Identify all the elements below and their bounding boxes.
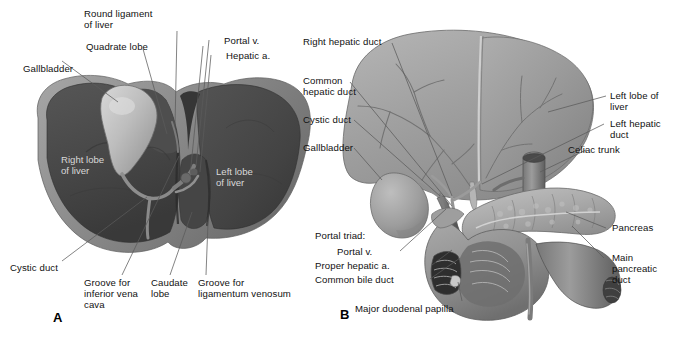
overlay-label-right-lobe-of-liver-a: Right lobe of liver: [61, 154, 104, 177]
label-celiac-trunk-b: Celiac trunk: [568, 144, 620, 155]
label-portal-triad-b: Portal triad:: [315, 230, 365, 241]
liver-left-lobe-a: [197, 85, 300, 230]
anatomy-figure: Round ligament of liver Quadrate lobe Ga…: [0, 0, 691, 343]
panel-letter-b: B: [340, 307, 349, 322]
label-common-hepatic-duct-b: Common hepatic duct: [303, 75, 356, 97]
label-caudate-lobe-a: Caudate lobe: [151, 277, 188, 299]
portal-structure-node-a: [181, 173, 191, 183]
label-groove-for-inferior-vena-cava-a: Groove for inferior vena cava: [84, 277, 138, 311]
label-right-hepatic-duct-b: Right hepatic duct: [303, 36, 382, 47]
label-gallbladder-b: Gallbladder: [303, 142, 353, 153]
label-quadrate-lobe-a: Quadrate lobe: [86, 41, 148, 52]
label-portal-vein-a: Portal v.: [224, 35, 259, 46]
label-portal-vein-b: Portal v.: [337, 246, 372, 257]
label-pancreas-b: Pancreas: [612, 222, 653, 233]
label-round-ligament-of-liver-a: Round ligament of liver: [84, 8, 153, 30]
duodenum-cutaway-b: [431, 252, 461, 295]
label-cystic-duct-b: Cystic duct: [303, 114, 351, 125]
label-gallbladder-a: Gallbladder: [23, 63, 73, 74]
panel-letter-a: A: [53, 310, 62, 325]
label-cystic-duct-a: Cystic duct: [10, 262, 58, 273]
gallbladder-highlight-a: [109, 97, 135, 115]
label-left-lobe-of-liver-b: Left lobe of liver: [610, 90, 659, 112]
overlay-label-left-lobe-of-liver-a: Left lobe of liver: [216, 166, 253, 189]
label-groove-for-ligamentum-venosum-a: Groove for ligamentum venosum: [198, 277, 291, 299]
label-hepatic-artery-a: Hepatic a.: [226, 50, 270, 61]
label-main-pancreatic-duct-b: Main pancreatic duct: [612, 252, 657, 286]
panel-a-artwork: [37, 31, 310, 275]
label-major-duodenal-papilla-b: Major duodenal papilla: [355, 303, 454, 314]
portal-structure-node-a2: [190, 168, 197, 175]
label-left-hepatic-duct-b: Left hepatic duct: [610, 118, 661, 140]
label-common-bile-duct-b: Common bile duct: [315, 274, 394, 285]
label-proper-hepatic-artery-b: Proper hepatic a.: [315, 260, 390, 271]
